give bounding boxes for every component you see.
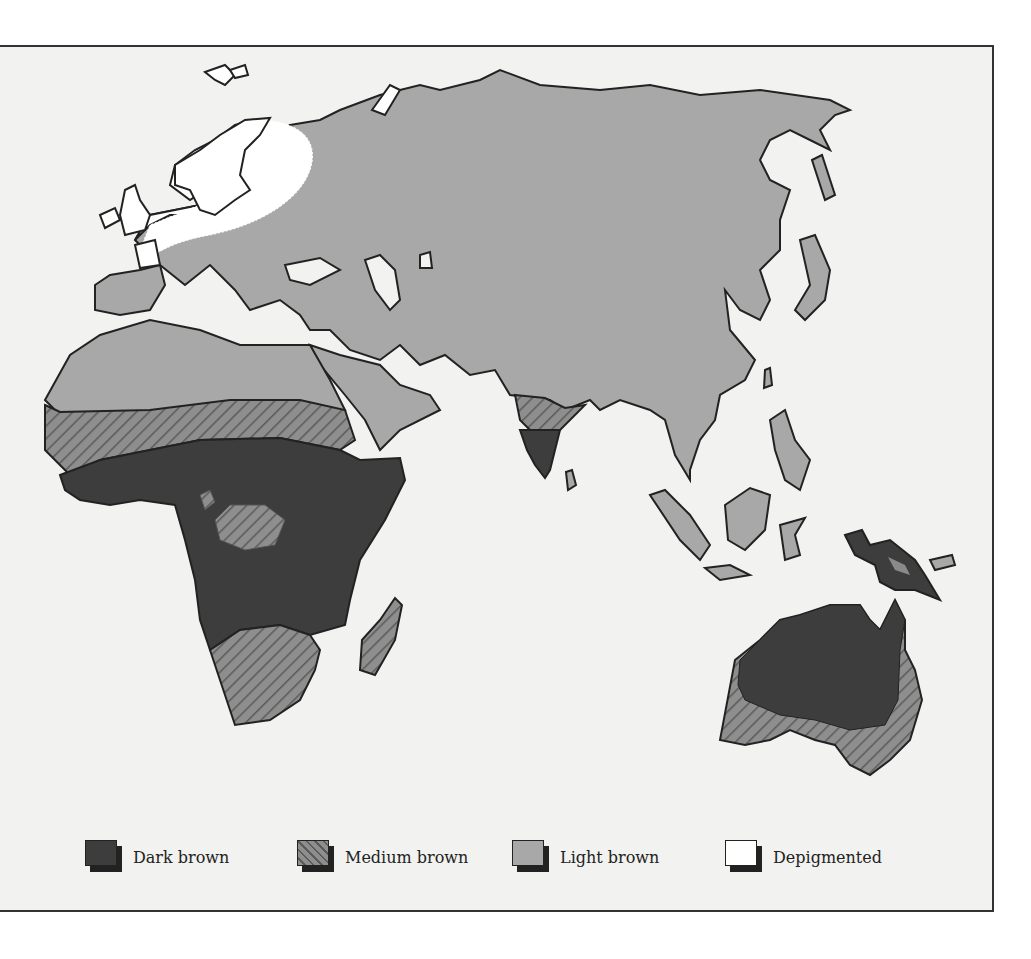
legend-item-dark-brown: Dark brown	[85, 840, 229, 874]
legend-item-light-brown: Light brown	[512, 840, 659, 874]
legend: Dark brown Medium brown Light brown Depi…	[85, 840, 945, 880]
region-southern-africa	[210, 625, 320, 725]
region-madagascar	[360, 598, 402, 675]
region-sumatra	[650, 490, 710, 560]
region-sri-lanka	[566, 470, 576, 490]
pigmentation-map	[0, 0, 1031, 959]
region-taiwan	[764, 368, 772, 388]
region-svalbard	[205, 65, 235, 85]
region-borneo	[725, 488, 770, 550]
region-south-india	[520, 430, 560, 478]
legend-item-depigmented: Depigmented	[725, 840, 882, 874]
region-philippines	[770, 410, 810, 490]
region-japan	[795, 235, 830, 320]
legend-label: Depigmented	[773, 848, 882, 867]
region-sulawesi	[780, 518, 805, 560]
region-iberia	[95, 265, 165, 315]
swatch-light-brown-icon	[512, 840, 552, 874]
swatch-medium-brown-icon	[297, 840, 337, 874]
legend-item-medium-brown: Medium brown	[297, 840, 468, 874]
region-ireland	[100, 208, 120, 228]
region-britain	[120, 185, 150, 235]
legend-label: Light brown	[560, 848, 659, 867]
swatch-dark-brown-icon	[85, 840, 125, 874]
legend-label: Dark brown	[133, 848, 229, 867]
legend-label: Medium brown	[345, 848, 468, 867]
region-java	[705, 565, 750, 580]
swatch-depigmented-icon	[725, 840, 765, 874]
